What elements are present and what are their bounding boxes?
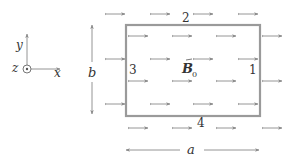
- side-label-4: 4: [197, 116, 205, 130]
- side-label-1: 1: [249, 63, 257, 77]
- x-axis-label: x: [54, 66, 61, 80]
- vector-arrow-icon: [186, 59, 192, 60]
- width-dimension: a: [126, 142, 259, 157]
- height-label: b: [88, 65, 96, 80]
- width-label: a: [187, 142, 195, 157]
- y-axis-label: y: [15, 38, 23, 52]
- coordinate-axes: y x z: [11, 34, 61, 80]
- height-dimension: b: [88, 25, 96, 114]
- z-axis-label: z: [11, 61, 19, 75]
- side-label-3: 3: [129, 63, 137, 77]
- field-subscript: 0: [192, 70, 197, 79]
- diagram-canvas: 2 3 1 4 B 0 b a y x z: [0, 0, 295, 162]
- field-label-b0: B 0: [181, 59, 197, 79]
- side-label-2: 2: [182, 11, 190, 25]
